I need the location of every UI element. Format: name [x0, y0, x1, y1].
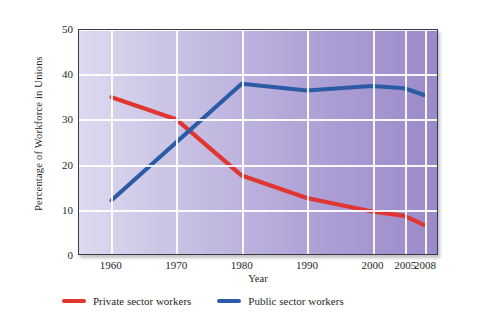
gridline-vertical: [405, 30, 407, 254]
y-tick-label: 30: [40, 113, 73, 125]
gridline-horizontal: [79, 74, 437, 76]
legend-swatch-icon: [62, 299, 86, 303]
y-tick-label: 50: [40, 23, 73, 35]
x-tick-label: 1980: [231, 259, 253, 271]
legend-item[interactable]: Private sector workers: [62, 295, 191, 307]
chart-figure: Percentage of Workforce in Unions 010203…: [0, 0, 496, 316]
x-tick-label: 2000: [362, 259, 384, 271]
gridline-vertical: [425, 30, 427, 254]
gridline-horizontal: [79, 210, 437, 212]
y-tick-label: 40: [40, 68, 73, 80]
y-tick-label: 0: [40, 249, 73, 261]
x-axis-title: Year: [78, 273, 438, 284]
chart-legend: Private sector workersPublic sector work…: [62, 292, 462, 310]
y-axis-tick-labels: 01020304050: [40, 0, 73, 316]
y-tick-label: 10: [40, 204, 73, 216]
plot-area: [78, 29, 438, 255]
x-tick-label: 1970: [165, 259, 187, 271]
gridline-vertical: [176, 30, 178, 254]
legend-label: Public sector workers: [248, 295, 343, 307]
x-tick-label: 1960: [100, 259, 122, 271]
gridline-vertical: [307, 30, 309, 254]
gridline-vertical: [111, 30, 113, 254]
x-tick-label: 2008: [414, 259, 436, 271]
gridline-horizontal: [79, 29, 437, 31]
legend-swatch-icon: [217, 299, 241, 303]
y-tick-label: 20: [40, 159, 73, 171]
gridline-horizontal: [79, 119, 437, 121]
series-lines: [79, 30, 437, 254]
legend-label: Private sector workers: [93, 295, 191, 307]
gridline-vertical: [373, 30, 375, 254]
x-tick-label: 1990: [296, 259, 318, 271]
gridline-vertical: [242, 30, 244, 254]
legend-item[interactable]: Public sector workers: [217, 295, 343, 307]
gridline-horizontal: [79, 165, 437, 167]
